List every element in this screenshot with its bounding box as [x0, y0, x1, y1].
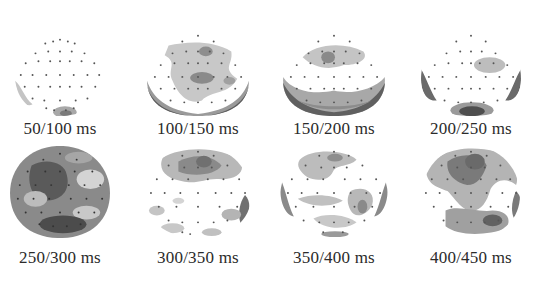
- scalp-map: [277, 142, 391, 240]
- map-time-label: 400/450 ms: [403, 248, 539, 268]
- scalp-map: [417, 22, 525, 120]
- map-time-label: 150/200 ms: [266, 119, 402, 139]
- scalp-map: [11, 22, 109, 120]
- map-time-label: 100/150 ms: [130, 119, 266, 139]
- scalp-map: [142, 142, 254, 240]
- map-time-label: 200/250 ms: [403, 119, 539, 139]
- map-time-label: 50/100 ms: [0, 119, 128, 139]
- map-time-label: 350/400 ms: [266, 248, 402, 268]
- scalp-map: [418, 142, 524, 240]
- map-time-label: 300/350 ms: [130, 248, 266, 268]
- map-time-label: 250/300 ms: [0, 248, 128, 268]
- scalp-map: [6, 142, 114, 240]
- scalp-map: [278, 22, 390, 120]
- scalp-map: [142, 22, 254, 120]
